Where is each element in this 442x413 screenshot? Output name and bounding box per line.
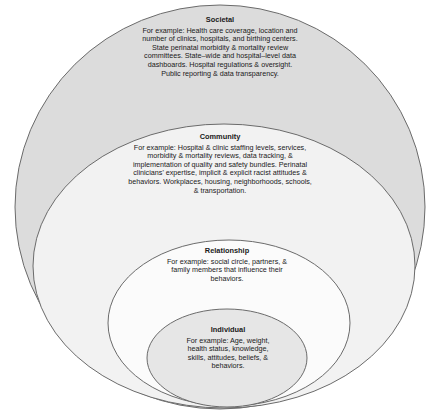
- community-title: Community: [128, 133, 312, 142]
- relationship-description: For example: social circle, partners, & …: [163, 258, 291, 284]
- societal-label: Societal For example: Health care covera…: [140, 16, 300, 78]
- individual-description: For example: Age, weight, health status,…: [178, 337, 278, 371]
- individual-title: Individual: [178, 326, 278, 335]
- community-description: For example: Hospital & clinic staffing …: [128, 144, 312, 196]
- societal-title: Societal: [140, 16, 300, 25]
- relationship-title: Relationship: [163, 247, 291, 256]
- societal-description: For example: Health care coverage, locat…: [140, 27, 300, 79]
- individual-label: Individual For example: Age, weight, hea…: [178, 326, 278, 371]
- relationship-label: Relationship For example: social circle,…: [163, 247, 291, 283]
- community-label: Community For example: Hospital & clinic…: [128, 133, 312, 195]
